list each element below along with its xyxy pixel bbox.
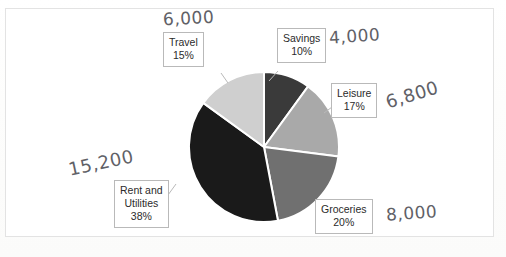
callout-travel[interactable]: Travel 15% (163, 32, 204, 67)
handwritten-amount-groceries: 8,000 (385, 201, 437, 225)
callout-leisure[interactable]: Leisure 17% (331, 83, 377, 118)
handwritten-amount-travel: 6,000 (163, 7, 215, 30)
callout-rent-percent: 38% (120, 210, 163, 223)
callout-groceries[interactable]: Groceries 20% (315, 199, 373, 234)
callout-savings-percent: 10% (283, 45, 320, 58)
callout-rent-and-utilities[interactable]: Rent and Utilities 38% (114, 180, 169, 228)
callout-rent-category-line2: Utilities (120, 197, 163, 210)
callout-leisure-category: Leisure (337, 87, 371, 100)
callout-savings-category: Savings (283, 32, 320, 45)
handwritten-amount-savings: 4,000 (328, 24, 380, 48)
callout-savings[interactable]: Savings 10% (277, 28, 326, 63)
callout-leisure-percent: 17% (337, 100, 371, 113)
callout-groceries-percent: 20% (321, 216, 367, 229)
callout-travel-category: Travel (169, 36, 198, 49)
callout-groceries-category: Groceries (321, 203, 367, 216)
callout-rent-category-line1: Rent and (120, 184, 163, 197)
callout-travel-percent: 15% (169, 49, 198, 62)
